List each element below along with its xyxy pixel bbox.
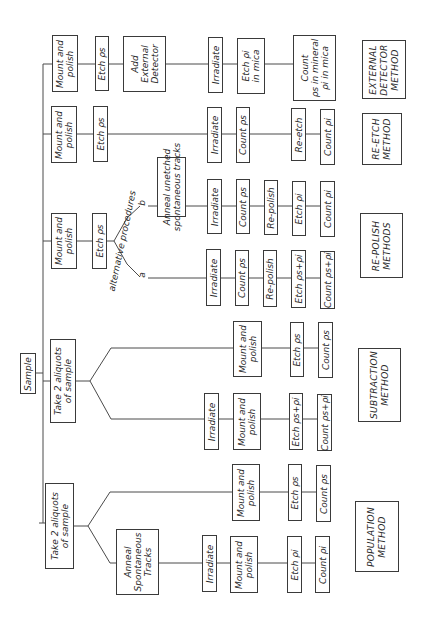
- rp-mount-polish-box: Mount and polish: [51, 213, 77, 269]
- sub-aliquots-box: Take 2 aliquots of sample: [50, 339, 76, 423]
- rp-etch-ps-label: Etch ρs: [95, 224, 105, 257]
- re-irradiate-label: Irradiate: [210, 116, 220, 154]
- ed-count-label: Count ρs in mineral ρi in mica: [300, 39, 330, 98]
- pop-u-mount-box: Mount and polish: [232, 464, 260, 521]
- rp-a-repolish-label: Re-polish: [265, 258, 275, 300]
- re-count-pi-box: Count ρi: [320, 109, 335, 165]
- pop-u-count-label: Count ρs: [319, 474, 329, 514]
- re-method-box: RE-ETCH METHOD: [362, 113, 402, 165]
- pop-l-anneal-box: Anneal Spontaneous Tracks: [116, 529, 159, 595]
- re-mount-polish-label: Mount and polish: [54, 110, 74, 158]
- rp-a-irradiate-label: Irradiate: [209, 258, 219, 296]
- rp-a-etch-label: Etch ρs+ρi: [294, 255, 304, 304]
- pop-l-anneal-label: Anneal Spontaneous Tracks: [123, 533, 153, 592]
- re-mount-polish-box: Mount and polish: [51, 106, 77, 163]
- fission-track-methods-diagram: Sample Mount and polish Etch ρs Add Exte…: [0, 0, 421, 635]
- re-count-pi-label: Count ρi: [323, 118, 333, 156]
- ed-mount-polish-box: Mount and polish: [52, 35, 78, 92]
- sub-u-count-label: Count ρs: [321, 330, 331, 370]
- pop-aliquots-label: Take 2 aliquots of sample: [50, 492, 70, 560]
- pop-l-irradiate-box: Irradiate: [202, 535, 217, 592]
- re-irradiate-box: Irradiate: [207, 107, 222, 163]
- rp-a-count-ps-box: Count ρs: [235, 250, 249, 306]
- rp-b-anneal-box: Anneal unetched spontaneous tracks: [157, 157, 186, 217]
- sub-l-etch-label: Etch ρs+ρi: [291, 397, 301, 446]
- rp-a-irradiate-box: Irradiate: [206, 249, 221, 306]
- rp-a-repolish-box: Re-polish: [263, 250, 277, 307]
- sub-l-irradiate-box: Irradiate: [204, 393, 219, 450]
- ed-count-box: Count ρs in mineral ρi in mica: [293, 35, 336, 101]
- sub-u-mount-label: Mount and polish: [238, 325, 258, 373]
- rp-b-irradiate-label: Irradiate: [210, 187, 220, 225]
- pop-l-irradiate-label: Irradiate: [205, 544, 215, 582]
- ed-etch-ps-label: Etch ρs: [97, 47, 107, 80]
- rp-b-count-pi-box: Count ρi: [320, 181, 335, 237]
- ed-method-box: EXTERNAL DETECTOR METHOD: [362, 40, 406, 99]
- sub-u-etch-box: Etch ρs: [290, 322, 304, 377]
- re-reetch-box: Re-etch: [291, 108, 306, 161]
- pop-u-count-box: Count ρs: [316, 465, 331, 522]
- sample-box: Sample: [20, 353, 36, 394]
- pop-aliquots-box: Take 2 aliquots of sample: [45, 483, 74, 569]
- pop-l-count-box: Count ρi: [315, 536, 330, 593]
- pop-l-mount-label: Mount and polish: [234, 540, 254, 588]
- pop-l-etch-label: Etch ρi: [290, 549, 300, 580]
- rp-a-count-ps-label: Count ρs: [237, 258, 247, 298]
- rp-a-count-label: Count ρs+ρi: [323, 252, 333, 308]
- re-count-ps-label: Count ρs: [238, 115, 248, 155]
- pop-u-etch-box: Etch ρs: [288, 464, 302, 521]
- rp-b-repolish-label: Re-polish: [266, 187, 276, 229]
- rp-b-anneal-label: Anneal unetched spontaneous tracks: [162, 143, 182, 231]
- re-etch-ps-label: Etch ρs: [96, 117, 106, 150]
- sub-method-label: SUBTRACTION METHOD: [369, 351, 391, 419]
- sub-l-count-label: Count ρs+ρi: [320, 395, 330, 451]
- pop-l-etch-box: Etch ρi: [287, 536, 302, 593]
- sub-l-count-box: Count ρs+ρi: [317, 394, 332, 451]
- sub-method-box: SUBTRACTION METHOD: [358, 348, 401, 422]
- sub-u-etch-label: Etch ρs: [292, 333, 302, 366]
- sub-l-irradiate-label: Irradiate: [207, 402, 217, 440]
- rp-etch-ps-box: Etch ρs: [92, 213, 107, 269]
- rp-b-repolish-box: Re-polish: [264, 180, 278, 235]
- sub-aliquots-label: Take 2 aliquots of sample: [53, 347, 73, 415]
- rp-mount-polish-label: Mount and polish: [54, 217, 74, 265]
- pop-l-mount-box: Mount and polish: [230, 536, 258, 593]
- sample-label: Sample: [23, 357, 33, 391]
- rp-b-etch-pi-label: Etch ρi: [294, 193, 304, 224]
- rp-b-irradiate-box: Irradiate: [207, 179, 222, 234]
- rp-a-count-box: Count ρs+ρi: [320, 251, 335, 309]
- rp-method-box: RE-POLISH METHODS: [360, 213, 403, 278]
- rp-b-etch-pi-box: Etch ρi: [292, 181, 306, 236]
- rp-b-count-ps-label: Count ρs: [238, 187, 248, 227]
- re-etch-ps-box: Etch ρs: [93, 106, 108, 162]
- sub-l-mount-label: Mount and polish: [237, 397, 257, 445]
- rp-method-label: RE-POLISH METHODS: [371, 220, 393, 271]
- pop-l-count-label: Count ρi: [318, 546, 328, 584]
- ed-etch-pi-box: Etch ρi in mica: [237, 38, 265, 94]
- pop-method-box: POPULATION METHOD: [355, 501, 399, 572]
- ed-etch-ps-box: Etch ρs: [95, 36, 109, 91]
- path-a-marker: a: [137, 272, 147, 278]
- sub-l-mount-box: Mount and polish: [233, 393, 261, 450]
- ed-add-detector-box: Add External Detector: [123, 36, 166, 92]
- rp-a-etch-box: Etch ρs+ρi: [291, 250, 306, 308]
- ed-method-label: EXTERNAL DETECTOR METHOD: [368, 44, 401, 95]
- pop-method-label: POPULATION METHOD: [366, 506, 388, 566]
- pop-u-etch-label: Etch ρs: [290, 476, 300, 509]
- sub-l-etch-box: Etch ρs+ρi: [289, 393, 303, 450]
- ed-irradiate-label: Irradiate: [211, 46, 221, 84]
- re-reetch-label: Re-etch: [294, 117, 304, 152]
- re-method-label: RE-ETCH METHOD: [371, 118, 393, 160]
- ed-irradiate-box: Irradiate: [208, 37, 223, 93]
- sub-u-mount-box: Mount and polish: [233, 321, 262, 377]
- ed-etch-pi-label: Etch ρi in mica: [241, 50, 261, 83]
- path-b-marker: b: [137, 200, 147, 206]
- re-count-ps-box: Count ρs: [236, 107, 250, 163]
- ed-mount-polish-label: Mount and polish: [55, 39, 75, 87]
- sub-u-count-box: Count ρs: [318, 322, 333, 378]
- ed-add-detector-label: Add External Detector: [130, 44, 160, 83]
- pop-u-mount-label: Mount and polish: [236, 468, 256, 516]
- rp-b-count-pi-label: Count ρi: [323, 190, 333, 228]
- rp-b-count-ps-box: Count ρs: [236, 179, 250, 234]
